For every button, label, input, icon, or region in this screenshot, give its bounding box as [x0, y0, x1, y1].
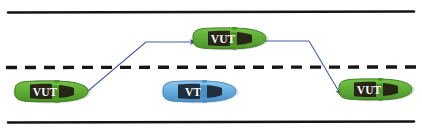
side-mirror-left: [54, 80, 59, 83]
solid-lane-boundary-bottom: [8, 122, 414, 123]
vehicle-vut-end[interactable]: VUT: [337, 78, 415, 102]
side-mirror-right: [232, 47, 237, 50]
side-mirror-left: [232, 27, 237, 30]
road-scenario-diagram: VUT VUT VT: [0, 0, 422, 132]
vehicle-vt-target[interactable]: VT: [161, 80, 239, 104]
side-mirror-right: [378, 98, 383, 101]
side-mirror-left: [202, 80, 207, 83]
vehicle-label: VUT: [33, 86, 58, 98]
side-mirror-right: [202, 100, 207, 103]
vehicle-label: VT: [185, 86, 201, 98]
vehicle-label: VUT: [357, 84, 382, 96]
vehicle-label: VUT: [211, 33, 236, 45]
roof-strip: [200, 85, 207, 97]
solid-lane-boundary-top: [8, 12, 414, 13]
side-mirror-left: [378, 78, 383, 81]
scene-canvas: VUT VUT VT: [0, 0, 422, 132]
dashed-center-line: [6, 67, 416, 68]
vehicle-vut-overtaking[interactable]: VUT: [191, 27, 269, 51]
side-mirror-right: [54, 100, 59, 103]
vehicle-vut-start[interactable]: VUT: [13, 80, 91, 104]
